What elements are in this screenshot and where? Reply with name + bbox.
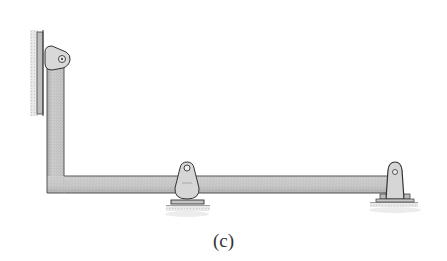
figure-caption: (c): [0, 230, 447, 252]
pin-support-wall: [45, 46, 70, 70]
beam-diagram: [0, 0, 447, 261]
l-shaped-beam: [47, 66, 401, 193]
beam-diagram-svg: [0, 0, 447, 261]
wall: [30, 30, 43, 116]
